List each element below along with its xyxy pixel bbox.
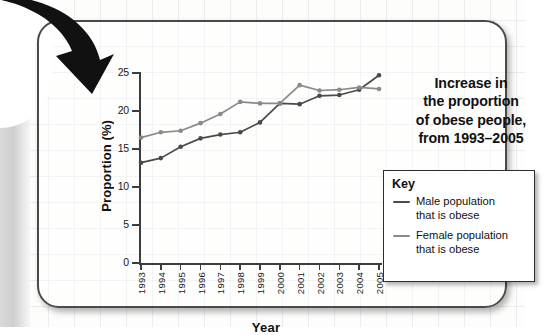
data-point (317, 94, 322, 99)
data-point (218, 132, 223, 137)
x-axis-title: Year (181, 320, 351, 335)
chart-title-line-4: from 1993–2005 (387, 129, 547, 147)
legend-entry-male: Male populationthat is obese (392, 195, 526, 223)
data-point (238, 130, 243, 135)
legend-label-line-1: Male population (416, 195, 495, 209)
curved-down-arrow-icon (0, 0, 146, 102)
data-point (377, 73, 382, 78)
data-point (258, 101, 263, 106)
data-point (139, 160, 144, 165)
series-line-male (141, 75, 379, 162)
legend-entry-label: Male populationthat is obese (416, 195, 495, 223)
data-point (357, 85, 362, 90)
data-point (337, 93, 342, 98)
legend-entries: Male populationthat is obeseFemale popul… (392, 195, 526, 257)
legend-entry-female: Female populationthat is obese (392, 229, 526, 257)
legend-title: Key (392, 177, 526, 191)
data-point (297, 83, 302, 88)
data-point (159, 156, 164, 161)
data-point (297, 102, 302, 107)
data-point (198, 121, 203, 126)
chart-title-line-3: of obese people, (387, 111, 547, 129)
data-point (337, 87, 342, 92)
legend-label-line-2: that is obese (416, 209, 495, 223)
data-point (218, 112, 223, 117)
legend-line-swatch (393, 201, 410, 203)
data-point (238, 100, 243, 105)
legend-key-box: Key Male populationthat is obeseFemale p… (383, 170, 535, 282)
chart-title: Increase inthe proportionof obese people… (387, 74, 547, 148)
data-point (139, 135, 144, 140)
data-point (278, 101, 283, 106)
legend-label-line-2: that is obese (416, 243, 508, 257)
data-point (317, 88, 322, 93)
data-point (258, 120, 263, 125)
chart-title-line-2: the proportion (387, 92, 547, 110)
data-point (198, 136, 203, 141)
chart-title-line-1: Increase in (387, 74, 547, 92)
series-line-female (141, 85, 379, 137)
data-point (159, 130, 164, 135)
data-point (178, 128, 183, 133)
data-point (377, 87, 382, 92)
legend-line-swatch (393, 235, 410, 237)
data-point (178, 144, 183, 149)
legend-entry-label: Female populationthat is obese (416, 229, 508, 257)
legend-label-line-1: Female population (416, 229, 508, 243)
